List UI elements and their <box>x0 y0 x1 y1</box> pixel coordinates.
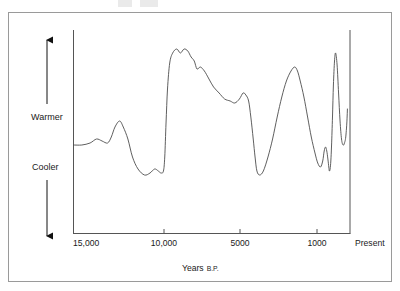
temperature-line-chart: Warmer Cooler 15,000 10,000 5000 1000 Pr… <box>0 0 400 291</box>
x-tick-label-present: Present <box>355 238 385 248</box>
figure-root: Warmer Cooler 15,000 10,000 5000 1000 Pr… <box>0 0 400 291</box>
y-axis-cooler-label: Cooler <box>32 162 59 172</box>
x-tick-label-5000: 5000 <box>230 238 249 248</box>
x-tick-label-10000: 10,000 <box>151 238 178 248</box>
plot-axes <box>73 30 351 234</box>
caption-bp-word: B.P. <box>207 265 219 272</box>
x-tick-label-1000: 1000 <box>307 238 326 248</box>
temperature-series-line <box>74 49 348 175</box>
x-axis-caption-main: YearsB.P. <box>182 263 219 273</box>
x-axis-ticks <box>164 229 317 234</box>
x-axis-caption: YearsB.P. <box>182 263 219 273</box>
y-axis-direction-group: Warmer Cooler <box>31 40 63 236</box>
x-axis-tick-labels: 15,000 10,000 5000 1000 Present <box>73 238 385 248</box>
caption-years-word: Years <box>182 263 204 273</box>
y-axis-warmer-label: Warmer <box>31 112 63 122</box>
x-tick-label-15000: 15,000 <box>73 238 100 248</box>
